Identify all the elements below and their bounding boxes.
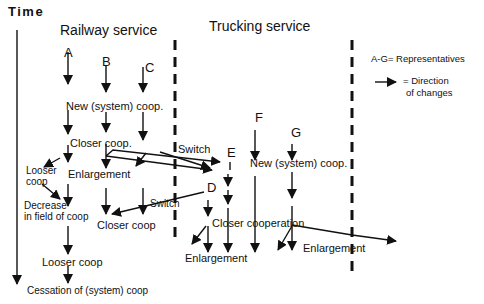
node-rail-looser-coop-2: Looser coop [42,256,103,268]
node-rail-cessation: Cessation of (system) coop [27,285,148,297]
switch-label-1: Switch [178,143,210,155]
node-rail-new-coop: New (system) coop. [66,100,163,112]
node-rail-decrease-line1: Decrease [24,200,67,211]
legend-direction-line2: of changes [406,87,452,98]
representative-g: G [291,126,301,140]
legend-representatives: A-G= Representatives [371,53,465,64]
node-truck-closer-cooperation: Closer cooperation [212,217,304,229]
node-truck-enlargement-2: Enlargement [303,242,365,254]
representative-e: E [227,146,236,160]
representative-c: C [145,61,154,75]
representative-f: F [255,111,263,125]
legend-direction-line1: = Direction [403,75,449,86]
railway-service-header: Railway service [60,22,157,38]
node-truck-new-coop: New (system) coop. [250,157,347,169]
node-rail-enlargement: Enlargement [68,168,130,180]
switch-label-2: Switch [150,198,179,210]
representative-a: A [64,46,73,60]
trucking-service-header: Trucking service [209,18,310,34]
time-axis-label: Time [8,6,44,18]
diagram-canvas: Time Railway service Trucking service A … [0,0,484,304]
representative-d: D [207,181,216,195]
representative-b: B [102,55,111,69]
node-rail-closer-coop: Closer coop. [70,137,132,149]
node-truck-enlargement-1: Enlargement [185,252,247,264]
node-rail-closer-coop-2: Closer coop [97,219,156,231]
node-rail-looser-coop-line2: coop [26,176,48,187]
node-rail-looser-coop-line1: Looser [26,165,57,176]
node-rail-decrease-line2: in field of coop [24,211,89,222]
